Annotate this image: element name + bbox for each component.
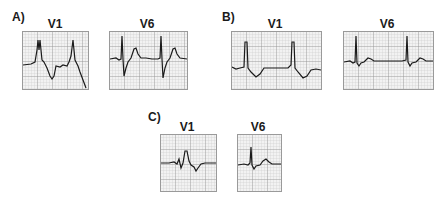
- ecg-trace: [110, 32, 187, 89]
- ecg-trace: [232, 32, 321, 89]
- panel-a-v6-label: V6: [132, 17, 162, 31]
- ecg-trace: [23, 32, 88, 89]
- panel-a-label: A): [12, 10, 25, 24]
- panel-c-v6-strip: [237, 134, 282, 192]
- panel-a-v6-strip: [109, 31, 188, 90]
- panel-b-v1-label: V1: [260, 17, 290, 31]
- panel-c-label: C): [148, 110, 161, 124]
- ecg-trace: [161, 135, 216, 191]
- panel-a-v1-label: V1: [40, 17, 70, 31]
- panel-b-v6-strip: [343, 31, 434, 90]
- panel-c-v1-strip: [160, 134, 217, 192]
- panel-b-label: B): [222, 10, 235, 24]
- ecg-trace: [238, 135, 281, 191]
- panel-b-v1-strip: [231, 31, 322, 90]
- panel-c-v6-label: V6: [243, 120, 273, 134]
- panel-c-v1-label: V1: [172, 120, 202, 134]
- ecg-trace: [344, 32, 433, 89]
- panel-a-v1-strip: [22, 31, 89, 90]
- panel-b-v6-label: V6: [372, 17, 402, 31]
